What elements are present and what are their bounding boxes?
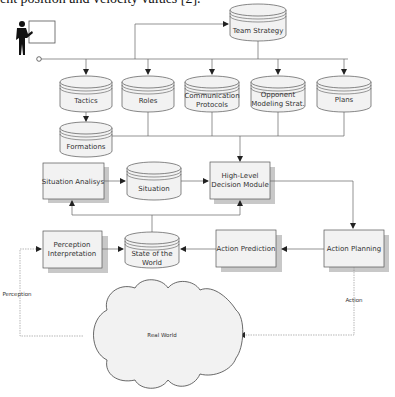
team-strategy-store[interactable]: Team Strategy (230, 4, 286, 41)
opponent-modeling-store[interactable]: Opponent Modeling Strat. (251, 76, 305, 112)
communication-label: Communication (184, 92, 239, 100)
tactics-store[interactable]: Tactics (60, 76, 112, 112)
high-level-decision-box[interactable]: High-Level Decision Module (210, 162, 275, 204)
perception-interpretation-box[interactable]: Perception Interpretation (43, 231, 108, 273)
protocols-label: Protocols (196, 101, 228, 109)
presenter-icon (16, 21, 55, 55)
action-planning-label: Action Planning (327, 245, 381, 253)
formations-label: Formations (67, 143, 106, 151)
plans-store[interactable]: Plans (317, 76, 371, 112)
high-level-label: High-Level (221, 172, 258, 180)
plans-label: Plans (335, 96, 354, 104)
decision-module-label: Decision Module (211, 181, 268, 189)
world-label: World (142, 259, 162, 267)
interpretation-label: Interpretation (48, 250, 96, 258)
start-node-icon (37, 57, 42, 62)
perception-edge-label: Perception (2, 291, 32, 298)
action-prediction-box[interactable]: Action Prediction (216, 230, 282, 272)
architecture-diagram: Team Strategy Tactics Roles Communicatio… (0, 0, 395, 397)
roles-store[interactable]: Roles (122, 76, 174, 112)
real-world-cloud[interactable]: Real World (93, 280, 242, 389)
communication-protocols-store[interactable]: Communication Protocols (184, 76, 239, 112)
tactics-label: Tactics (73, 97, 98, 105)
situation-analysis-box[interactable]: Situation Analisys (42, 163, 109, 203)
opponent-label: Opponent (261, 91, 296, 99)
state-of-world-store[interactable]: State of the World (125, 232, 179, 268)
action-edge-label: Action (345, 297, 363, 303)
state-of-the-label: State of the (131, 250, 172, 258)
roles-label: Roles (139, 97, 158, 105)
formations-store[interactable]: Formations (60, 122, 112, 157)
perception-label: Perception (53, 241, 90, 249)
modeling-strat-label: Modeling Strat. (251, 100, 304, 108)
team-strategy-label: Team Strategy (232, 27, 284, 35)
situation-label: Situation (138, 185, 169, 193)
real-world-label: Real World (147, 332, 176, 338)
action-planning-box[interactable]: Action Planning (324, 230, 389, 272)
situation-store[interactable]: Situation (127, 162, 181, 200)
situation-analysis-label: Situation Analisys (42, 178, 105, 186)
action-prediction-label: Action Prediction (217, 245, 276, 253)
